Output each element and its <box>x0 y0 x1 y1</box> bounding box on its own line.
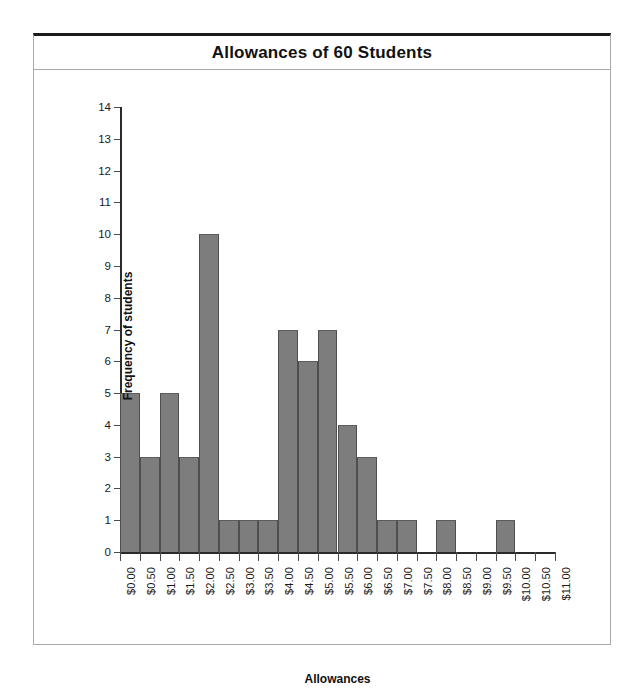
x-axis-tick-label: $5.00 <box>323 567 335 595</box>
x-axis-tick-label: $9.00 <box>481 567 493 595</box>
histogram-bar <box>338 425 358 552</box>
y-axis-tick-label: 3 <box>105 451 111 463</box>
x-axis-tick-label: $1.50 <box>184 567 196 595</box>
x-axis-tick <box>417 552 418 561</box>
x-axis-tick <box>496 552 497 561</box>
y-axis-tick-label: 12 <box>98 165 111 177</box>
page-title: Allowances of 60 Students <box>212 43 432 63</box>
y-axis-tick <box>114 234 120 235</box>
y-axis-tick-label: 9 <box>105 260 111 272</box>
chart-title-band: Allowances of 60 Students <box>34 36 610 70</box>
x-axis-tick <box>199 552 200 561</box>
y-axis-tick-label: 14 <box>98 101 111 113</box>
x-axis-tick <box>555 552 556 561</box>
histogram-bar <box>357 457 377 552</box>
x-axis-tick-label: $10.00 <box>520 567 532 601</box>
x-axis-tick-label: $4.50 <box>303 567 315 595</box>
x-axis-tick <box>397 552 398 561</box>
x-axis-title: Allowances <box>120 672 555 686</box>
x-axis-tick-label: $9.50 <box>501 567 513 595</box>
y-axis-tick <box>114 425 120 426</box>
x-axis-tick-label: $10.50 <box>540 567 552 601</box>
histogram-bar <box>179 457 199 552</box>
y-axis-tick-label: 5 <box>105 387 111 399</box>
y-axis-tick <box>114 330 120 331</box>
x-axis-tick <box>120 552 121 561</box>
x-axis-tick <box>515 552 516 561</box>
x-axis-tick <box>377 552 378 561</box>
y-axis-tick-label: 1 <box>105 514 111 526</box>
histogram-bar <box>160 393 180 552</box>
y-axis-tick <box>114 171 120 172</box>
x-axis-tick <box>298 552 299 561</box>
y-axis-tick-label: 0 <box>105 546 111 558</box>
y-axis-tick <box>114 393 120 394</box>
x-axis-tick-label: $11.00 <box>560 567 572 600</box>
x-axis-tick-label: $8.00 <box>441 567 453 595</box>
y-axis-tick <box>114 520 120 521</box>
histogram-bar <box>120 393 140 552</box>
x-axis-tick-label: $7.50 <box>422 567 434 595</box>
x-axis-tick-label: $6.50 <box>382 567 394 595</box>
x-axis-tick <box>476 552 477 561</box>
y-axis-tick-label: 2 <box>105 482 111 494</box>
histogram-bar <box>496 520 516 552</box>
x-axis-tick <box>239 552 240 561</box>
x-axis-tick-label: $0.00 <box>125 567 137 595</box>
y-axis-tick <box>114 107 120 108</box>
x-axis-tick-label: $6.00 <box>362 567 374 595</box>
x-axis-tick <box>278 552 279 561</box>
histogram-plot-area: 01234567891011121314 $0.00$0.50$1.00$1.5… <box>120 107 555 552</box>
histogram-bar <box>140 457 160 552</box>
x-axis-tick <box>535 552 536 561</box>
x-axis-tick-label: $3.00 <box>244 567 256 595</box>
x-axis-tick <box>179 552 180 561</box>
x-axis-tick <box>456 552 457 561</box>
histogram-bar <box>258 520 278 552</box>
x-axis-tick-label: $7.00 <box>402 567 414 595</box>
x-axis-tick <box>357 552 358 561</box>
y-axis-tick <box>114 298 120 299</box>
x-axis-tick-label: $0.50 <box>145 567 157 595</box>
histogram-bar <box>298 361 318 552</box>
y-axis-tick-label: 11 <box>99 196 111 208</box>
y-axis-tick-label: 8 <box>105 292 111 304</box>
y-axis-tick <box>114 488 120 489</box>
x-axis-tick <box>160 552 161 561</box>
histogram-bar <box>397 520 417 552</box>
x-axis-tick <box>318 552 319 561</box>
histogram-bar <box>436 520 456 552</box>
y-axis-tick <box>114 266 120 267</box>
x-axis-tick-label: $5.50 <box>343 567 355 595</box>
y-axis-tick <box>114 361 120 362</box>
x-axis-tick-label: $2.50 <box>224 567 236 595</box>
y-axis-title: Frequency of students <box>121 272 135 401</box>
x-axis-tick <box>258 552 259 561</box>
x-axis-tick <box>436 552 437 561</box>
histogram-bar <box>377 520 397 552</box>
y-axis-tick-label: 10 <box>98 228 111 240</box>
y-axis-tick-label: 4 <box>105 419 111 431</box>
y-axis-tick <box>114 457 120 458</box>
x-axis-tick-label: $3.50 <box>263 567 275 595</box>
histogram-bar <box>239 520 259 552</box>
histogram-bar <box>219 520 239 552</box>
x-axis-tick-label: $1.00 <box>165 567 177 595</box>
y-axis-tick-label: 6 <box>105 355 111 367</box>
x-axis-tick-label: $2.00 <box>204 567 216 595</box>
histogram-bar <box>199 234 219 552</box>
figure-frame: Allowances of 60 Students 01234567891011… <box>33 33 611 645</box>
x-axis-tick <box>140 552 141 561</box>
y-axis-tick <box>114 139 120 140</box>
y-axis-tick-label: 13 <box>98 133 111 145</box>
histogram-bar <box>278 330 298 553</box>
x-axis-tick-label: $4.00 <box>283 567 295 595</box>
x-axis-tick <box>219 552 220 561</box>
histogram-bar <box>318 330 338 553</box>
y-axis-tick-label: 7 <box>105 324 111 336</box>
x-axis-tick-label: $8.50 <box>461 567 473 595</box>
y-axis-tick <box>114 202 120 203</box>
x-axis-tick <box>338 552 339 561</box>
